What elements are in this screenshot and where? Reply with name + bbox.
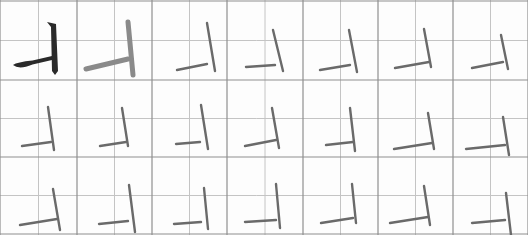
practice-vertical-stroke bbox=[201, 105, 208, 149]
trace-vertical-stroke bbox=[128, 22, 133, 75]
practice-horizontal-stroke bbox=[472, 62, 503, 68]
practice-horizontal-stroke bbox=[176, 142, 200, 144]
practice-vertical-stroke bbox=[53, 189, 60, 230]
practice-horizontal-stroke bbox=[472, 220, 505, 223]
practice-cell-r0-c0 bbox=[13, 22, 58, 75]
practice-vertical-stroke bbox=[207, 23, 215, 71]
practice-cell-r2-c3 bbox=[245, 184, 280, 228]
practice-vertical-stroke bbox=[272, 108, 279, 148]
practice-horizontal-stroke bbox=[466, 145, 505, 149]
practice-vertical-stroke bbox=[424, 186, 430, 225]
practice-horizontal-stroke bbox=[320, 65, 350, 70]
practice-horizontal-stroke bbox=[245, 220, 276, 222]
practice-cell-r1-c1 bbox=[100, 108, 128, 146]
practice-cell-r2-c4 bbox=[321, 184, 356, 223]
practice-vertical-stroke bbox=[506, 193, 511, 235]
practice-horizontal-stroke bbox=[177, 64, 207, 70]
practice-horizontal-stroke bbox=[100, 142, 126, 146]
practice-cell-r0-c1 bbox=[86, 22, 133, 75]
practice-horizontal-stroke bbox=[395, 62, 429, 68]
practice-cell-r2-c1 bbox=[99, 185, 135, 232]
practice-horizontal-stroke bbox=[22, 142, 51, 146]
practice-horizontal-stroke bbox=[321, 218, 353, 223]
practice-vertical-stroke bbox=[48, 107, 54, 150]
practice-horizontal-stroke bbox=[99, 221, 128, 224]
practice-horizontal-stroke bbox=[174, 222, 201, 224]
model-horizontal-stroke bbox=[13, 56, 52, 67]
practice-cell-r1-c2 bbox=[176, 105, 208, 149]
practice-sheet bbox=[0, 0, 528, 235]
practice-horizontal-stroke bbox=[390, 217, 428, 223]
practice-cell-r0-c4 bbox=[320, 30, 357, 72]
practice-vertical-stroke bbox=[129, 185, 135, 232]
practice-cell-r2-c6 bbox=[472, 193, 511, 235]
practice-cell-r0-c5 bbox=[395, 29, 431, 68]
practice-cell-r1-c4 bbox=[326, 108, 355, 151]
practice-cell-r2-c2 bbox=[174, 188, 208, 229]
practice-vertical-stroke bbox=[204, 188, 208, 229]
practice-cell-r1-c3 bbox=[245, 108, 279, 148]
trace-horizontal-stroke bbox=[86, 59, 128, 69]
strokes bbox=[0, 0, 528, 235]
practice-vertical-stroke bbox=[350, 108, 355, 151]
practice-horizontal-stroke bbox=[394, 143, 432, 149]
practice-cell-r2-c5 bbox=[390, 186, 430, 225]
practice-cell-r1-c5 bbox=[394, 113, 434, 149]
practice-vertical-stroke bbox=[501, 35, 508, 69]
practice-vertical-stroke bbox=[122, 108, 128, 146]
practice-cell-r1-c0 bbox=[22, 107, 54, 150]
practice-cell-r0-c2 bbox=[177, 23, 215, 71]
practice-horizontal-stroke bbox=[20, 219, 57, 225]
practice-horizontal-stroke bbox=[326, 142, 353, 145]
practice-cell-r1-c6 bbox=[466, 117, 509, 155]
practice-cell-r0-c3 bbox=[246, 30, 283, 71]
practice-vertical-stroke bbox=[276, 184, 280, 228]
practice-horizontal-stroke bbox=[246, 65, 275, 67]
model-vertical-stroke bbox=[47, 22, 58, 75]
practice-cell-r2-c0 bbox=[20, 189, 60, 230]
practice-cell-r0-c6 bbox=[472, 35, 508, 69]
practice-vertical-stroke bbox=[503, 117, 509, 155]
practice-horizontal-stroke bbox=[245, 140, 276, 146]
